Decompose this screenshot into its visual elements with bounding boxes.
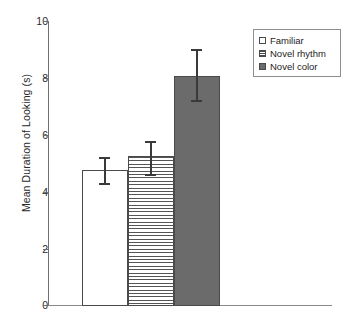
legend-label-familiar: Familiar	[270, 35, 304, 46]
legend-swatch-novel-color-icon	[259, 63, 266, 70]
error-bar-novel-color	[196, 49, 198, 101]
error-bar-familiar	[104, 157, 106, 184]
legend-item-novel-rhythm: Novel rhythm	[259, 47, 334, 59]
bar-chart: Mean Duration of Looking (s) 10 8 6 4 2 …	[0, 0, 347, 329]
bar-novel-color	[174, 76, 220, 306]
bar-familiar	[82, 170, 128, 306]
error-cap-lower-familiar	[99, 183, 110, 185]
error-bar-novel-rhythm	[150, 141, 152, 175]
bar-novel-rhythm	[128, 156, 174, 306]
legend-item-novel-color: Novel color	[259, 60, 334, 72]
legend-label-novel-rhythm: Novel rhythm	[270, 48, 326, 59]
error-cap-lower-novel-color	[191, 100, 202, 102]
error-cap-lower-novel-rhythm	[145, 174, 156, 176]
legend-swatch-familiar-icon	[259, 37, 266, 44]
error-cap-upper-novel-color	[191, 49, 202, 51]
error-cap-upper-familiar	[99, 157, 110, 159]
legend-item-familiar: Familiar	[259, 34, 334, 46]
error-cap-upper-novel-rhythm	[145, 141, 156, 143]
legend: Familiar Novel rhythm Novel color	[253, 29, 341, 77]
legend-label-novel-color: Novel color	[270, 61, 318, 72]
legend-swatch-novel-rhythm-icon	[259, 50, 266, 57]
